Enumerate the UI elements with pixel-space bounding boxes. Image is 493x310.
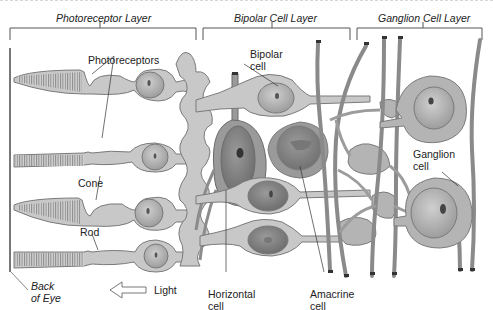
rod-label: Rod <box>80 226 99 238</box>
bipolar-layer-label: Bipolar Cell Layer <box>234 12 317 24</box>
retina-diagram: Photoreceptor Layer Bipolar Cell Layer G… <box>0 0 493 310</box>
amacrine-cell-label-2: cell <box>310 300 326 310</box>
light-arrow-icon <box>110 282 146 298</box>
amacrine-cell-label-1: Amacrine <box>310 288 354 300</box>
back-of-eye-label-2: of Eye <box>31 292 61 304</box>
ganglion-layer-label: Ganglion Cell Layer <box>378 12 470 24</box>
horizontal-cell-label-1: Horizontal <box>208 288 255 300</box>
light-label: Light <box>154 284 177 296</box>
photoreceptors-label: Photoreceptors <box>88 54 159 66</box>
cone-label: Cone <box>78 177 103 189</box>
bipolar-cell-label-1: Bipolar <box>250 48 283 60</box>
bipolar-cell-label-2: cell <box>250 60 266 72</box>
photoreceptor-layer-label: Photoreceptor Layer <box>56 12 151 24</box>
back-of-eye-label-1: Back <box>31 280 54 292</box>
layer-brackets <box>10 22 482 40</box>
horizontal-cell-label-2: cell <box>208 300 224 310</box>
ganglion-cell-label-2: cell <box>413 160 429 172</box>
ganglion-cell-label-1: Ganglion <box>413 148 455 160</box>
photoreceptor-cells <box>14 69 190 272</box>
